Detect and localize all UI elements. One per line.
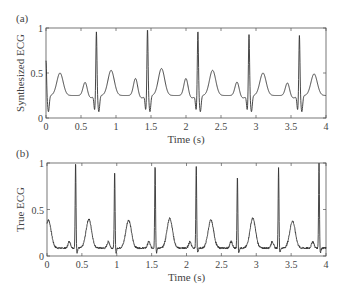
y-tick-label: 1 bbox=[39, 158, 44, 169]
x-tick-label: 4 bbox=[324, 259, 329, 270]
y-tick-label: 0.5 bbox=[32, 205, 45, 216]
ecg-trace bbox=[47, 163, 326, 253]
x-tick-label: 1.5 bbox=[145, 259, 158, 270]
x-tick-label: 1.5 bbox=[145, 121, 158, 132]
ecg-figure: (a)00.511.522.533.5400.51Time (s)Synthes… bbox=[0, 0, 344, 290]
x-tick-label: 4 bbox=[324, 121, 329, 132]
x-tick-label: 2.5 bbox=[215, 121, 228, 132]
x-tick-label: 0.5 bbox=[75, 121, 88, 132]
y-axis-label: True ECG bbox=[14, 187, 26, 232]
y-tick-label: 1 bbox=[38, 23, 43, 34]
x-tick-label: 0 bbox=[45, 259, 50, 270]
x-tick-label: 1 bbox=[114, 259, 119, 270]
x-tick-label: 2.5 bbox=[215, 259, 228, 270]
panel-label: (a) bbox=[16, 12, 29, 25]
panel-a-synthesized-ecg: (a)00.511.522.533.5400.51Time (s)Synthes… bbox=[14, 12, 329, 146]
y-axis-label: Synthesized ECG bbox=[14, 34, 26, 112]
x-tick-label: 3.5 bbox=[285, 121, 298, 132]
y-tick-label: 0 bbox=[38, 113, 43, 124]
panel-b-true-ecg: (b)00.511.522.533.5400.51Time (s)True EC… bbox=[14, 147, 329, 284]
x-axis-label: Time (s) bbox=[167, 133, 205, 146]
x-tick-label: 0.5 bbox=[76, 259, 89, 270]
y-tick-label: 0 bbox=[39, 251, 44, 262]
x-tick-label: 1 bbox=[114, 121, 119, 132]
x-tick-label: 3 bbox=[254, 259, 259, 270]
axes-frame bbox=[46, 28, 326, 118]
x-tick-label: 2 bbox=[184, 259, 189, 270]
y-tick-label: 0.5 bbox=[31, 68, 44, 79]
axes-frame bbox=[47, 163, 326, 256]
x-tick-label: 2 bbox=[184, 121, 189, 132]
x-tick-label: 3.5 bbox=[285, 259, 298, 270]
x-tick-label: 3 bbox=[254, 121, 259, 132]
x-tick-label: 0 bbox=[44, 121, 49, 132]
ecg-trace bbox=[46, 30, 326, 112]
panel-label: (b) bbox=[16, 147, 29, 160]
x-axis-label: Time (s) bbox=[168, 271, 206, 284]
